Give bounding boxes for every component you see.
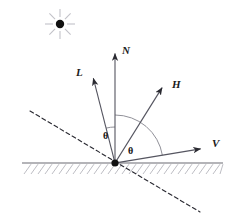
light-source <box>45 9 75 39</box>
hatch-line <box>220 164 223 174</box>
angle-theta-reflected-label: θ <box>128 145 133 156</box>
hatch-line <box>38 164 45 174</box>
hatch-line <box>24 164 31 174</box>
phong-vectors-figure: LNHV θθ <box>0 0 232 217</box>
hatch-line <box>73 164 80 174</box>
vector-N-label: N <box>121 44 131 56</box>
origin-point <box>111 159 118 166</box>
hatch-line <box>87 164 94 174</box>
vector-V-label: V <box>212 137 221 149</box>
hatch-line <box>31 164 38 174</box>
hatch-line <box>94 164 101 174</box>
figure-canvas: LNHV θθ <box>0 0 232 217</box>
vector-H <box>116 88 162 161</box>
hatch-line <box>164 164 171 174</box>
angle-theta-incident-label: θ <box>103 130 108 141</box>
light-ray <box>49 29 55 35</box>
hatch-line <box>157 164 164 174</box>
vector-L <box>93 78 114 160</box>
hatch-line <box>199 164 206 174</box>
hatch-line <box>192 164 199 174</box>
hatch-line <box>136 164 143 174</box>
vector-L-label: L <box>75 66 83 78</box>
hatch-line <box>52 164 59 174</box>
hatch-line <box>66 164 73 174</box>
angle-theta-reflected-arc <box>115 115 162 155</box>
vector-arrows <box>93 54 200 163</box>
light-ray <box>49 13 55 19</box>
light-source-dot <box>56 20 64 28</box>
hatch-line <box>59 164 66 174</box>
angle-theta-incident-arc <box>106 127 115 128</box>
light-ray <box>65 13 71 19</box>
hatch-line <box>178 164 185 174</box>
light-ray <box>65 29 71 35</box>
surface-hatching <box>24 164 223 174</box>
hatch-line <box>101 164 108 174</box>
hatch-line <box>213 164 220 174</box>
hatch-line <box>80 164 87 174</box>
vector-labels: LNHV <box>75 44 221 149</box>
hatch-line <box>45 164 52 174</box>
hatch-line <box>171 164 178 174</box>
angle-labels: θθ <box>103 130 133 156</box>
hatch-line <box>143 164 150 174</box>
hatch-line <box>185 164 192 174</box>
hatch-line <box>150 164 157 174</box>
vector-H-label: H <box>171 78 181 90</box>
hatch-line <box>206 164 213 174</box>
